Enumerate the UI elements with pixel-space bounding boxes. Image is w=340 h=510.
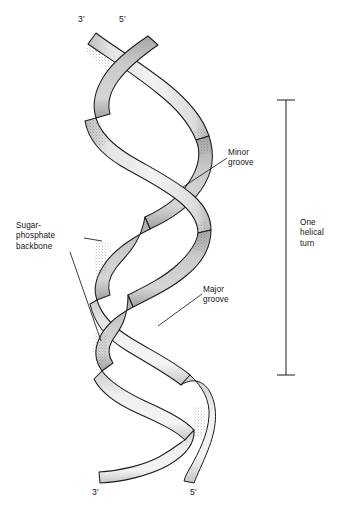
leader-line-major-groove — [158, 294, 202, 326]
dna-helix-figure: Sugar- phosphate backbone Minor groove M… — [0, 0, 340, 510]
dna-helix-illustration — [0, 0, 340, 510]
label-three-prime-top-left: 3′ — [78, 14, 85, 24]
helical-turn-bracket — [277, 100, 295, 375]
stipple-patch — [192, 128, 212, 155]
helix-ribbons — [70, 33, 295, 483]
stipple-patch — [191, 405, 206, 439]
label-one-helical-turn: One helical turn — [300, 218, 324, 249]
label-five-prime-top-right: 5′ — [119, 14, 126, 24]
stipple-patch — [194, 222, 207, 253]
ribbon-segment — [99, 430, 194, 483]
label-five-prime-bottom-right: 5′ — [190, 487, 197, 497]
leader-line-sugar-phosphate-upper — [84, 238, 102, 241]
label-minor-groove: Minor groove — [228, 148, 254, 169]
label-three-prime-bottom-left: 3′ — [92, 487, 99, 497]
label-major-groove: Major groove — [203, 285, 229, 306]
label-sugar-phosphate-backbone: Sugar- phosphate backbone — [16, 221, 55, 252]
